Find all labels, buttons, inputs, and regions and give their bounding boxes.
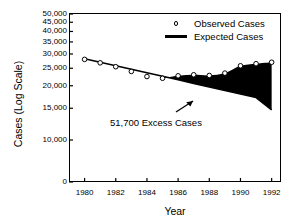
line-swatch-icon: [163, 35, 189, 37]
observed-data-point: [238, 63, 243, 68]
observed-data-point: [160, 76, 165, 81]
excess-cases-shaded-area: [163, 62, 272, 110]
chart-figure: Cases (Log Scale) 50,00045,00040,00035,0…: [0, 0, 295, 224]
legend-label-observed: Observed Cases: [194, 18, 265, 29]
legend-entry-expected: Expected Cases: [163, 30, 265, 43]
observed-data-point: [98, 61, 103, 66]
legend-entry-observed: Observed Cases: [163, 17, 265, 30]
observed-data-point: [113, 64, 118, 69]
excess-cases-annotation: 51,700 Excess Cases: [110, 117, 202, 128]
legend-label-expected: Expected Cases: [194, 31, 263, 42]
chart-legend: Observed Cases Expected Cases: [163, 17, 265, 43]
x-axis-title: Year: [69, 205, 281, 217]
observed-data-point: [145, 74, 150, 79]
observed-data-point: [223, 71, 228, 76]
observed-data-point: [207, 73, 212, 78]
annotation-arrow-icon: [176, 101, 193, 112]
observed-data-point: [129, 69, 134, 74]
observed-data-point: [82, 57, 87, 62]
observed-data-point: [254, 61, 259, 66]
observed-data-point: [269, 60, 274, 65]
observed-data-point: [191, 72, 196, 77]
open-circle-icon: [163, 21, 189, 25]
observed-data-point: [176, 74, 181, 79]
